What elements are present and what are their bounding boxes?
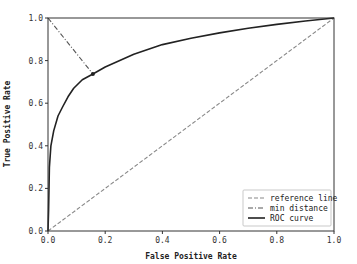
roc-chart: 0.00.20.40.60.81.00.00.20.40.60.81.0 ref… <box>0 0 357 264</box>
x-tick-label: 0.4 <box>155 236 170 245</box>
x-tick-label: 0.2 <box>98 236 113 245</box>
min-distance-line <box>48 18 93 74</box>
x-tick-label: 0.6 <box>212 236 227 245</box>
legend-label: reference line <box>270 194 338 203</box>
y-tick-label: 0.8 <box>29 57 44 66</box>
x-axis-label: False Positive Rate <box>145 251 237 261</box>
y-axis-label: True Positive Rate <box>2 80 12 167</box>
x-tick-label: 0.8 <box>270 236 285 245</box>
x-tick-label: 1.0 <box>327 236 342 245</box>
y-tick-label: 0.4 <box>29 142 44 151</box>
y-tick-label: 0.6 <box>29 99 44 108</box>
legend: reference linemin distanceROC curve <box>243 190 338 226</box>
y-tick-label: 0.2 <box>29 184 44 193</box>
legend-label: min distance <box>270 204 328 213</box>
optimal-point-marker <box>91 72 95 76</box>
y-tick-label: 1.0 <box>29 14 44 23</box>
legend-label: ROC curve <box>270 214 314 223</box>
x-tick-label: 0.0 <box>41 236 56 245</box>
y-tick-label: 0.0 <box>29 227 44 236</box>
